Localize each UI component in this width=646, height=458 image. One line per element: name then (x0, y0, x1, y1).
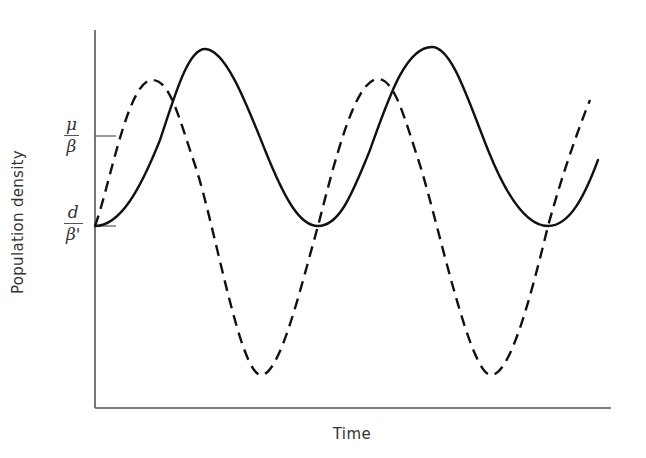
solid-curve-series (95, 47, 598, 226)
tick-label-denominator: β' (64, 224, 83, 243)
tick-label-denominator: β (64, 136, 79, 155)
plot-area (0, 0, 646, 458)
y-axis-label: Population density (9, 150, 27, 294)
y-tick-label-mu-over-beta: μ β (64, 116, 79, 155)
dashed-curve-series (95, 79, 590, 375)
tick-label-numerator: d (64, 204, 83, 224)
x-axis-label: Time (333, 425, 372, 443)
tick-label-numerator: μ (64, 116, 79, 136)
y-tick-label-d-over-beta-prime: d β' (64, 204, 83, 243)
